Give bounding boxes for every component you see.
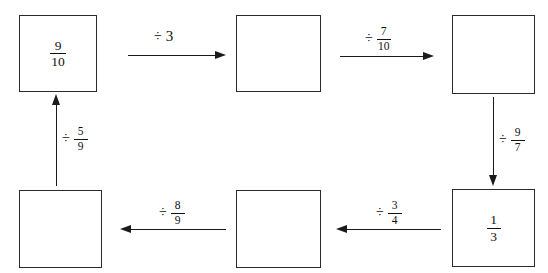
divide-operator: ÷ xyxy=(159,205,167,221)
divide-operator: ÷ xyxy=(499,132,507,148)
fraction-numerator: 8 xyxy=(174,200,182,213)
divisor-fraction: 3 4 xyxy=(388,200,402,226)
arrowhead-right-divide-7-10 xyxy=(423,52,434,60)
box-top-right[interactable] xyxy=(452,15,535,94)
fraction-denominator: 10 xyxy=(50,54,66,69)
divide-operator: ÷ xyxy=(376,205,384,221)
box-bottom-middle[interactable] xyxy=(236,190,321,268)
arrowhead-down-divide-9-7 xyxy=(489,175,497,186)
arrow-shaft-divide-5-9 xyxy=(56,104,57,186)
fraction-numerator: 9 xyxy=(514,127,522,140)
fraction-numerator: 9 xyxy=(54,39,63,54)
fraction-numerator: 7 xyxy=(380,26,388,39)
box-bottom-right[interactable]: 1 3 xyxy=(452,189,535,267)
arrowhead-left-divide-8-9 xyxy=(120,225,131,233)
fraction-numerator: 3 xyxy=(391,200,399,213)
box-bottom-left[interactable] xyxy=(19,190,102,268)
arrow-label-divide-7-10: ÷ 7 10 xyxy=(365,26,391,52)
arrow-shaft-divide-3 xyxy=(128,55,219,56)
divisor-whole: 3 xyxy=(166,28,174,45)
box-top-left[interactable]: 9 10 xyxy=(19,15,97,92)
fraction-denominator: 7 xyxy=(514,141,522,154)
divisor-fraction: 8 9 xyxy=(171,200,185,226)
arrowhead-right-divide-3 xyxy=(215,51,226,59)
arrow-shaft-divide-9-7 xyxy=(493,97,494,177)
arrowhead-up-divide-5-9 xyxy=(52,94,60,105)
arrowhead-left-divide-3-4 xyxy=(336,225,347,233)
arrow-shaft-divide-3-4 xyxy=(346,229,441,230)
arrow-shaft-divide-7-10 xyxy=(340,56,426,57)
fraction-denominator: 3 xyxy=(489,229,498,244)
box-top-middle[interactable] xyxy=(236,15,321,92)
arrow-label-divide-3: ÷ 3 xyxy=(154,28,173,45)
divisor-fraction: 5 9 xyxy=(74,126,88,152)
arrow-shaft-divide-8-9 xyxy=(131,229,226,230)
divide-operator: ÷ xyxy=(154,29,162,45)
fraction-denominator: 4 xyxy=(391,214,399,227)
divide-operator: ÷ xyxy=(365,31,373,47)
fraction-1-3: 1 3 xyxy=(487,213,501,243)
divisor-fraction: 9 7 xyxy=(511,127,525,153)
arrow-label-divide-5-9: ÷ 5 9 xyxy=(62,126,88,152)
fraction-numerator: 1 xyxy=(489,213,498,228)
divisor-fraction: 7 10 xyxy=(377,26,391,52)
fraction-denominator: 9 xyxy=(174,214,182,227)
fraction-denominator: 10 xyxy=(377,40,391,53)
arrow-label-divide-9-7: ÷ 9 7 xyxy=(499,127,525,153)
fraction-9-10: 9 10 xyxy=(50,39,66,69)
fraction-numerator: 5 xyxy=(77,126,85,139)
arrow-label-divide-3-4: ÷ 3 4 xyxy=(376,200,402,226)
fraction-denominator: 9 xyxy=(77,140,85,153)
diagram-canvas: 9 10 1 3 xyxy=(0,0,548,273)
divide-operator: ÷ xyxy=(62,131,70,147)
arrow-label-divide-8-9: ÷ 8 9 xyxy=(159,200,185,226)
